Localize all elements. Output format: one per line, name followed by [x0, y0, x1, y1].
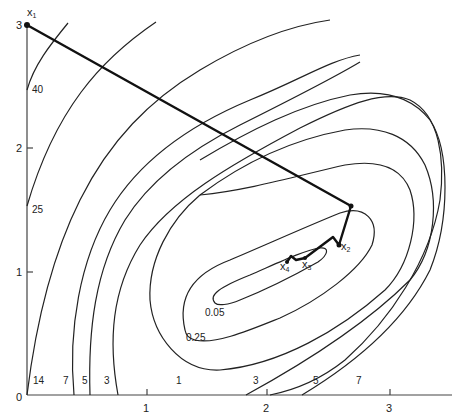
- point-x1: [24, 22, 30, 28]
- point-x4: [285, 260, 289, 264]
- descent-path: [27, 25, 351, 262]
- origin-label: 0: [16, 391, 22, 403]
- contour-label-7-right: 7: [356, 375, 362, 386]
- x-tick-label-3: 3: [386, 402, 392, 414]
- contour-3: [140, 97, 442, 395]
- y-tick-label-2: 2: [16, 142, 22, 154]
- label-x1: x1: [27, 6, 37, 19]
- contour-40: [27, 23, 68, 90]
- contour-plot: 0 1 2 3 3 2 1 x1 x2 x3 x4 40 25 14 7 5 3…: [0, 0, 474, 420]
- contour-5-right: [200, 129, 433, 395]
- y-tick-label-1: 1: [16, 266, 22, 278]
- contour-label-1: 1: [176, 375, 182, 386]
- contour-label-40: 40: [32, 84, 44, 95]
- point-bend: [349, 204, 354, 209]
- contour-label-5-left: 5: [82, 375, 88, 386]
- contour-14: [27, 20, 330, 395]
- contour-label-14: 14: [33, 375, 45, 386]
- label-x3: x3: [302, 258, 312, 271]
- contour-label-3-right: 3: [253, 375, 259, 386]
- contour-0.05: [213, 248, 327, 305]
- contour-label-25: 25: [32, 204, 44, 215]
- contour-label-5-right: 5: [313, 375, 319, 386]
- contour-7: [73, 55, 361, 395]
- contour-label-7-left: 7: [63, 375, 69, 386]
- contour-label-3-left: 3: [104, 375, 110, 386]
- contour-label-0.05: 0.05: [205, 307, 225, 318]
- x-tick-label-1: 1: [143, 402, 149, 414]
- y-tick-label-3: 3: [16, 19, 22, 31]
- contour-3-left: [113, 245, 140, 395]
- x-tick-label-2: 2: [263, 402, 269, 414]
- label-x2: x2: [341, 240, 351, 253]
- contour-diagram: 0 1 2 3 3 2 1 x1 x2 x3 x4 40 25 14 7 5 3…: [0, 0, 474, 420]
- contour-label-0.25: 0.25: [186, 332, 206, 343]
